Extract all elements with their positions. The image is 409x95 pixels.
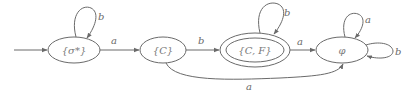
edge-label-n4-n4-b: b xyxy=(395,46,401,57)
edge-label-n1-n1: b xyxy=(98,11,104,22)
edge-n4-n4-b xyxy=(366,43,393,58)
state-n1: {σ*} xyxy=(48,37,100,63)
state-label-n1: {σ*} xyxy=(62,45,87,56)
edge-label-n2-n4: a xyxy=(246,81,252,92)
edge-label-n4-n4-a: a xyxy=(365,14,371,25)
edge-n1-n1-b xyxy=(74,7,96,38)
state-label-n4: φ xyxy=(338,45,345,56)
edge-label-n1-n2: a xyxy=(111,35,117,46)
state-label-n2: {C} xyxy=(153,45,173,56)
edge-label-n3-n4: a xyxy=(297,36,303,47)
edge-n3-n3-b xyxy=(259,3,284,34)
automaton-diagram: b a b a b a a b {σ*} {C} {C, F} φ xyxy=(0,0,409,95)
state-n4: φ xyxy=(316,37,368,63)
edge-label-n3-n3: b xyxy=(284,7,290,18)
state-label-n3: {C, F} xyxy=(238,45,271,56)
state-n2: {C} xyxy=(140,37,186,63)
edge-n4-n4-a xyxy=(344,13,363,38)
edge-label-n2-n3: b xyxy=(198,35,204,46)
state-n3-accepting: {C, F} xyxy=(220,33,290,67)
